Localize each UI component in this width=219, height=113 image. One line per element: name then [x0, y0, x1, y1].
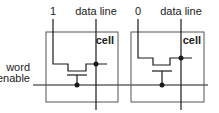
cell-label: cell [183, 34, 201, 46]
junction-dot [75, 83, 80, 88]
cell-1: cell 1 data line [46, 5, 118, 110]
cell-label: cell [96, 34, 114, 46]
junction-dot [179, 56, 184, 61]
cell-2: cell 0 data line [131, 5, 204, 110]
bit-label: 0 [135, 5, 141, 17]
memory-cell-diagram: word enable cell 1 data line cell 0 data… [0, 0, 219, 113]
junction-dot [94, 62, 99, 67]
junction-dot [160, 83, 165, 88]
enable-label: enable [0, 72, 30, 84]
data-line-label: data line [160, 5, 202, 17]
bit-label: 1 [50, 5, 56, 17]
data-line-label: data line [75, 5, 117, 17]
